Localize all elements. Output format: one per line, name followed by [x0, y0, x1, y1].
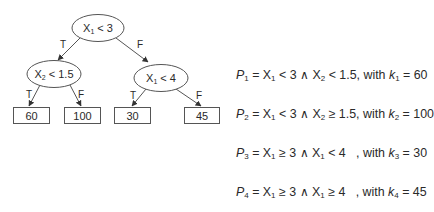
rule-3: P3 = X1 ≥ 3 ∧ X1 < 4 , with k3 = 30: [236, 147, 434, 160]
leaf-value-3: 30: [126, 110, 138, 122]
edge-label-left-right: F: [78, 89, 84, 100]
node-root-label: X1 < 3: [83, 22, 113, 35]
edge-label-root-right: F: [137, 39, 143, 50]
leaf-value-4: 45: [196, 110, 208, 122]
leaf-value-1: 60: [25, 110, 37, 122]
edge-label-right-right: F: [196, 90, 202, 101]
rule-2: P2 = X1 < 3 ∧ X2 ≥ 1.5, with k2 = 100: [236, 108, 434, 121]
leaf-value-2: 100: [73, 110, 91, 122]
node-right-label: X1 < 4: [146, 72, 176, 85]
edge-label-root-left: T: [60, 39, 66, 50]
edge-label-left-left: T: [26, 89, 32, 100]
edge-root-right: [116, 38, 148, 62]
decision-tree: T F T F T F X1 < 3 X2 < 1.5 X1 < 4 60 10…: [0, 0, 225, 132]
rule-4: P4 = X1 ≥ 3 ∧ X1 ≥ 4 , with k4 = 45: [236, 186, 434, 199]
rule-1: P1 = X1 < 3 ∧ X2 < 1.5, with k1 = 60: [236, 69, 434, 82]
rule-list: P1 = X1 < 3 ∧ X2 < 1.5, with k1 = 60 P2 …: [236, 43, 434, 212]
node-left-label: X2 < 1.5: [34, 68, 73, 81]
edge-label-right-left: T: [130, 90, 136, 101]
